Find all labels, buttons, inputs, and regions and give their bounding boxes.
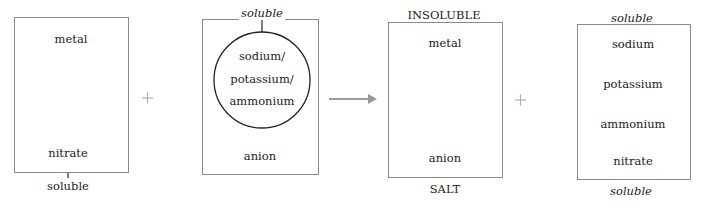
reactant-2-anion-label: anion <box>244 151 276 163</box>
product-1-salt-label: SALT <box>430 184 461 196</box>
product-2-item-sodium: sodium <box>612 39 654 51</box>
reactant-1-nitrate-label: nitrate <box>48 148 88 160</box>
reactant-1-soluble-label: soluble <box>47 181 89 193</box>
reaction-arrow-icon <box>329 94 377 104</box>
reactant-2-circle-line-3: ammonium <box>230 96 295 108</box>
product-2-item-nitrate: nitrate <box>613 156 653 168</box>
product-2-soluble-top-label: soluble <box>611 13 653 25</box>
product-1-metal-label: metal <box>429 38 462 50</box>
plus-icon-2 <box>515 95 526 106</box>
product-2-item-potassium: potassium <box>603 79 663 91</box>
reactant-2-soluble-label: soluble <box>239 8 285 20</box>
product-2-item-ammonium: ammonium <box>601 119 666 131</box>
reactant-2-circle-line-2: potassium/ <box>230 74 293 86</box>
product-1-anion-label: anion <box>429 153 461 165</box>
reactant-1-metal-label: metal <box>55 34 88 46</box>
product-2-soluble-bottom-label: soluble <box>610 186 652 198</box>
plus-icon-1 <box>142 93 153 104</box>
product-1-insoluble-label: INSOLUBLE <box>407 10 480 22</box>
reactant-2-circle-line-1: sodium/ <box>239 51 285 63</box>
